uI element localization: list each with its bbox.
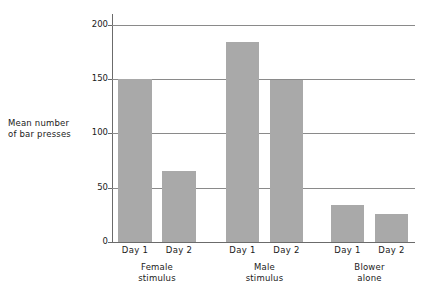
y-axis-line [112,14,113,242]
group-label-blower: Blower alone [325,262,415,284]
tick-mark-200 [108,25,112,26]
bar-male-day-1 [226,42,259,242]
tick-mark-150 [108,79,112,80]
tick-mark-0 [108,242,112,243]
bar-female-day-2 [162,171,196,242]
plot-area [112,14,415,242]
bar-blower-day-1 [331,205,364,242]
y-tick-label-200: 200 [82,20,108,29]
bar-chart: Mean number of bar presses 200 150 100 5… [0,0,438,303]
day-label-female-1: Day 1 [112,245,158,255]
day-label-male-2: Day 2 [264,245,309,255]
y-tick-label-0: 0 [82,237,108,246]
tick-mark-100 [108,133,112,134]
gridline-50 [112,188,415,189]
tick-mark-50 [108,188,112,189]
bar-blower-day-2 [375,214,408,242]
bar-female-day-1 [118,79,152,242]
x-axis-baseline [112,242,415,243]
gridline-150 [112,79,415,80]
gridline-100 [112,133,415,134]
y-axis-tick-labels: 200 150 100 50 0 [78,14,108,242]
group-label-male: Male stimulus [220,262,310,284]
bar-male-day-2 [270,80,303,242]
y-tick-label-50: 50 [82,183,108,192]
day-label-blower-1: Day 1 [325,245,370,255]
group-label-female: Female stimulus [112,262,202,284]
day-label-female-2: Day 2 [156,245,202,255]
day-label-male-1: Day 1 [220,245,265,255]
y-tick-label-100: 100 [82,128,108,137]
gridline-200 [112,25,415,26]
day-label-blower-2: Day 2 [369,245,414,255]
y-tick-label-150: 150 [82,74,108,83]
